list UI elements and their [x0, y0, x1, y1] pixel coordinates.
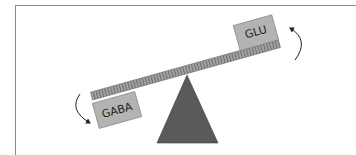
- left-arrow-icon: [76, 94, 90, 123]
- fulcrum-triangle: [157, 75, 218, 143]
- seesaw-diagram: GLU GABA: [0, 0, 356, 155]
- right-arrow-icon: [290, 28, 301, 60]
